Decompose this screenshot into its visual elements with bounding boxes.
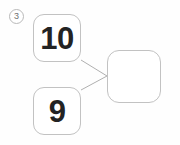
diagram-canvas: 3 10 9 <box>0 0 180 145</box>
connector-line-top <box>81 60 107 76</box>
connector-line-bottom <box>81 76 107 90</box>
card-ten-value: 10 <box>40 23 73 54</box>
step-number-badge: 3 <box>9 9 24 24</box>
card-nine-value: 9 <box>49 96 66 127</box>
card-ten[interactable]: 10 <box>33 14 81 62</box>
card-nine[interactable]: 9 <box>33 87 81 135</box>
step-number-label: 3 <box>14 12 19 21</box>
card-result[interactable] <box>107 50 161 103</box>
